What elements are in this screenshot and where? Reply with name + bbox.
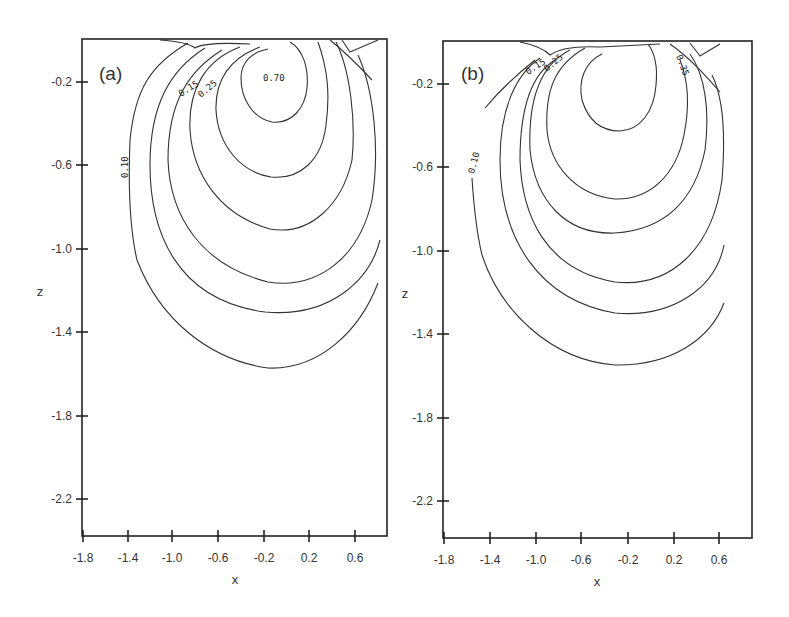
contour-surface-left (520, 42, 660, 55)
panel-b-x-axis: -1.8 -1.4 -1.0 -0.6 -0.2 0.2 0.6 x (434, 532, 728, 589)
contour-label: 0.10 (120, 156, 130, 178)
contour-label: 0.10 (466, 151, 481, 175)
panel-b-y-axis: -0.2 -0.6 -1.0 -1.4 -1.8 -2.2 z (402, 77, 449, 508)
contour-surface-left (160, 40, 250, 48)
y-tick-label: -2.2 (412, 494, 433, 508)
y-tick-label: -0.6 (412, 160, 433, 174)
y-tick-label: -0.6 (51, 158, 72, 172)
x-tick-label: -0.2 (254, 551, 275, 565)
x-tick-label: 0.2 (301, 551, 318, 565)
x-tick-label: -0.6 (571, 553, 592, 567)
panel-b-frame (443, 41, 752, 538)
x-axis-label: x (232, 572, 239, 587)
contour-label: 0.70 (263, 73, 285, 83)
x-tick-label: -1.8 (73, 551, 94, 565)
x-tick-label: 0.2 (666, 553, 683, 567)
panel-a: -0.2 -0.6 -1.0 -1.4 -1.8 -2.2 z -1.8 -1.… (37, 39, 387, 587)
contour-0.25 (520, 60, 724, 283)
x-tick-label: -1.4 (480, 553, 501, 567)
y-tick-label: -1.4 (412, 327, 433, 341)
x-tick-label: -0.2 (618, 553, 639, 567)
contour-0.70 (581, 44, 657, 131)
y-tick-label: -1.0 (412, 244, 433, 258)
y-axis-label: z (402, 286, 409, 301)
x-tick-label: 0.6 (347, 551, 364, 565)
y-axis-label: z (37, 284, 44, 299)
panel-a-x-axis: -1.8 -1.4 -1.0 -0.6 -0.2 0.2 0.6 x (73, 530, 364, 587)
panel-a-frame (82, 39, 387, 536)
x-tick-label: -1.0 (526, 553, 547, 567)
contour-0.35 (190, 42, 353, 230)
y-tick-label: -1.4 (51, 325, 72, 339)
contour-label: 0.35 (674, 53, 691, 77)
x-tick-label: -1.4 (118, 551, 139, 565)
panel-a-y-axis: -0.2 -0.6 -1.0 -1.4 -1.8 -2.2 z (37, 75, 88, 506)
contour-0.25 (168, 50, 376, 283)
y-tick-label: -1.0 (51, 242, 72, 256)
panel-b-contours (472, 42, 724, 365)
panel-a-contour-labels: 0.10 0.15 0.25 0.70 (120, 73, 285, 178)
contour-label: 0.15 (177, 78, 201, 98)
x-tick-label: -1.8 (434, 553, 455, 567)
contour-surface-right (670, 44, 720, 92)
contour-0.15 (500, 58, 724, 314)
x-tick-label: -1.0 (162, 551, 183, 565)
panel-a-label: (a) (99, 63, 122, 84)
x-axis-label: x (594, 574, 601, 589)
y-tick-label: -0.2 (51, 75, 72, 89)
contour-0.50 (216, 42, 328, 177)
contour-0.50 (547, 48, 688, 199)
contour-0.10 (129, 43, 378, 368)
x-tick-label: 0.6 (711, 553, 728, 567)
contour-0.35 (530, 50, 707, 233)
x-tick-label: -0.6 (208, 551, 229, 565)
y-tick-label: -1.8 (412, 411, 433, 425)
panel-b: -0.2 -0.6 -1.0 -1.4 -1.8 -2.2 z -1.8 -1.… (402, 41, 752, 589)
y-tick-label: -0.2 (412, 77, 433, 91)
y-tick-label: -2.2 (51, 492, 72, 506)
y-tick-label: -1.8 (51, 409, 72, 423)
contour-surface-right (330, 40, 372, 80)
panel-b-label: (b) (461, 63, 484, 84)
panel-a-contours (129, 40, 380, 368)
contour-surface-right-2 (690, 43, 720, 56)
contour-surface-right-2 (342, 40, 378, 52)
figure: -0.2 -0.6 -1.0 -1.4 -1.8 -2.2 z -1.8 -1.… (0, 0, 789, 617)
contour-0.10 (472, 178, 724, 365)
